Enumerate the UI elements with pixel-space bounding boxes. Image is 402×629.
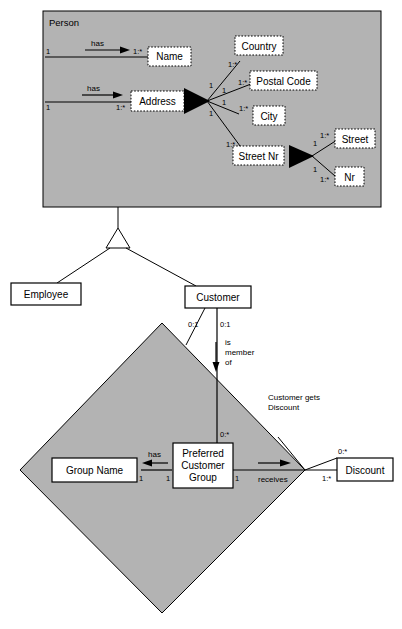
attribute-label-address: Address	[139, 96, 176, 107]
generalization-triangle	[106, 228, 130, 248]
diagram-svg: Person has 1 1:* Name has 1 1:* Address …	[0, 0, 402, 629]
attribute-label-name: Name	[156, 51, 183, 62]
mult-streetnr-street-target: 1:*	[320, 131, 329, 140]
uml-diagram-canvas: Person has 1 1:* Name has 1 1:* Address …	[0, 0, 402, 629]
verb-arrow-is-member-of-head	[213, 362, 220, 372]
mult-pcg-top: 0:*	[220, 430, 229, 439]
attribute-label-nr: Nr	[344, 172, 355, 183]
mult-streetnr-street-source: 1	[313, 139, 317, 148]
attribute-label-city: City	[260, 111, 277, 122]
mult-address-country-target: 1:*	[228, 60, 237, 69]
mult-customer-left: 0:1	[188, 320, 198, 329]
entity-label-group-name: Group Name	[66, 465, 124, 476]
mult-pcg-left: 1	[166, 474, 170, 483]
entity-label-pcg-line1: Preferred	[182, 448, 224, 459]
entity-label-pcg-line2: Customer	[181, 460, 225, 471]
mult-person-name-target: 1:*	[133, 47, 142, 56]
mult-streetnr-nr-source: 1	[313, 165, 317, 174]
note-customer-gets-discount-line1: Customer gets	[268, 393, 320, 402]
mult-groupname-right: 1	[139, 474, 143, 483]
person-package-title: Person	[49, 17, 79, 28]
verb-label-is-member-of-line1: is	[225, 338, 231, 347]
note-customer-gets-discount-line2: Discount	[268, 403, 300, 412]
verb-label-is-member-of-line3: of	[225, 358, 232, 367]
mult-person-address-target: 1:*	[116, 103, 125, 112]
mult-discount-top: 0:*	[338, 447, 347, 456]
verb-label-has-address: has	[87, 84, 100, 93]
mult-address-country-source: 1	[209, 81, 213, 90]
entity-label-customer: Customer	[196, 292, 240, 303]
mult-address-postal-source: 1	[222, 86, 226, 95]
mult-address-streetnr-source: 1	[209, 109, 213, 118]
mult-address-city-target: 1:*	[239, 104, 248, 113]
entity-label-employee: Employee	[24, 289, 69, 300]
attribute-label-street-nr: Street Nr	[238, 151, 279, 162]
mult-customer-right: 0:1	[220, 320, 230, 329]
verb-label-is-member-of-line2: member	[225, 348, 255, 357]
entity-label-discount: Discount	[346, 465, 385, 476]
attribute-label-street: Street	[342, 134, 369, 145]
entity-label-pcg-line3: Group	[189, 472, 217, 483]
mult-discount-left: 1:*	[322, 474, 331, 483]
generalization-branch-employee	[57, 248, 110, 283]
verb-label-receives: receives	[258, 475, 288, 484]
mult-address-postal-target: 1:*	[238, 78, 247, 87]
verb-label-has-group-name: has	[148, 450, 161, 459]
attribute-label-country: Country	[241, 41, 276, 52]
mult-pcg-right: 1	[235, 474, 239, 483]
mult-person-name-source: 1	[46, 47, 50, 56]
mult-address-city-source: 1	[222, 98, 226, 107]
verb-label-has-name: has	[91, 39, 104, 48]
assoc-diamond-discount-upper	[305, 458, 337, 470]
mult-streetnr-nr-target: 1:*	[320, 175, 329, 184]
generalization-branch-customer	[126, 248, 196, 286]
mult-person-address-source: 1	[46, 103, 50, 112]
attribute-label-postal-code: Postal Code	[256, 76, 311, 87]
